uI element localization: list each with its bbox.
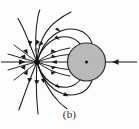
horizontal-field-lines-group [37,48,70,76]
charge-label: q [35,45,39,53]
field-line-lower-outer-2 [36,62,38,114]
arrowhead-arc-lower-1 [55,84,60,88]
arrowhead-lower-outer-1 [27,78,32,83]
figure-container: q (b) [0,0,139,129]
figure-caption: (b) [0,108,139,120]
arrowhead-axis-right [112,59,119,65]
arrowhead-axis-left [19,59,26,65]
arrowhead-arc-upper-2 [55,28,61,32]
arrowhead-horizontal-3 [52,60,57,64]
arrowhead-lower-outer-2 [34,80,39,85]
sphere-center-dot [85,60,88,63]
point-charge [34,59,40,65]
